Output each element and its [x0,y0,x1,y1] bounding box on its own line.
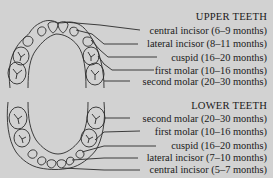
lower-leader-lines [62,118,156,170]
lower-central-incisor-label: central incisor (5–7 months) [149,164,267,176]
upper-arch [8,21,104,89]
upper-cuspid-label: cuspid (16–20 months) [170,52,267,64]
lower-arch [7,102,105,170]
lower-lateral-incisor-label: lateral incisor (7–10 months) [146,152,267,164]
upper-central-incisor-label: central incisor (6–9 months) [149,25,267,37]
upper-teeth-title: UPPER TEETH [196,11,267,22]
leader-upper-central-incisor [64,22,140,30]
upper-second-molar-label: second molar (20–30 months) [142,76,267,88]
leader-lower-lateral-incisor [72,158,138,160]
lower-cuspid-label: cuspid (16–20 months) [170,140,267,152]
leader-lower-central-incisor [62,168,140,170]
upper-lateral-incisor-label: lateral incisor (8–11 months) [146,38,267,50]
upper-leader-lines [64,22,162,81]
leader-upper-first-molar [98,56,162,70]
lower-second-molar-label: second molar (20–30 months) [142,113,267,125]
lower-first-molar-label: first molar (10–16 months) [154,126,267,138]
lower-teeth-title: LOWER TEETH [191,100,267,111]
